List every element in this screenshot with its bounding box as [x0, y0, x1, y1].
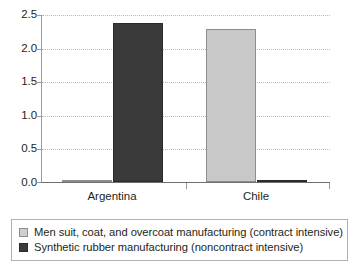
legend-item-noncontract-intensive[interactable]: Synthetic rubber manufacturing (noncontr… [19, 241, 303, 253]
chart-legend: Men suit, coat, and overcoat manufacturi… [11, 219, 348, 261]
legend-item-contract-intensive[interactable]: Men suit, coat, and overcoat manufacturi… [19, 226, 343, 238]
bars-layer [42, 15, 330, 182]
y-tick-label: 1.5 [21, 76, 37, 88]
y-tick-label: 1.0 [21, 110, 37, 122]
legend-item-label: Men suit, coat, and overcoat manufacturi… [34, 226, 343, 238]
plot-area: 0.0 0.5 1.0 1.5 2.0 2.5 Argentina [0, 0, 363, 210]
bar-chile-contract-intensive[interactable] [206, 29, 256, 182]
bar-argentina-noncontract-intensive[interactable] [113, 23, 163, 182]
y-tick-label: 0.5 [21, 144, 37, 156]
x-tick-label-chile: Chile [243, 190, 269, 203]
bar-chart-figure: 0.0 0.5 1.0 1.5 2.0 2.5 Argentina [0, 0, 363, 271]
dark-square-swatch-icon [19, 243, 28, 252]
bar-chile-noncontract-intensive[interactable] [257, 180, 307, 182]
x-tick-mark [329, 183, 330, 189]
bar-argentina-contract-intensive[interactable] [62, 180, 112, 182]
y-tick-label: 2.0 [21, 43, 37, 55]
x-axis: Argentina Chile [41, 190, 330, 208]
light-square-swatch-icon [19, 228, 28, 237]
y-axis: 0.0 0.5 1.0 1.5 2.0 2.5 [0, 0, 40, 210]
x-tick-label-argentina: Argentina [87, 190, 136, 203]
x-tick-mark [186, 183, 187, 189]
y-tick-label: 0.0 [21, 177, 37, 189]
y-tick-label: 2.5 [21, 9, 37, 21]
legend-item-label: Synthetic rubber manufacturing (noncontr… [34, 241, 303, 253]
